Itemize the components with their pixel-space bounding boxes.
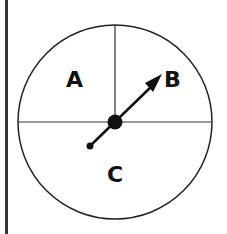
section-label-b: B	[164, 69, 181, 91]
spinner-pivot	[108, 115, 123, 130]
section-label-a: A	[66, 69, 83, 91]
arrow-tail-dot	[87, 143, 94, 150]
spinner-diagram	[0, 0, 227, 234]
section-label-c: C	[107, 164, 123, 186]
